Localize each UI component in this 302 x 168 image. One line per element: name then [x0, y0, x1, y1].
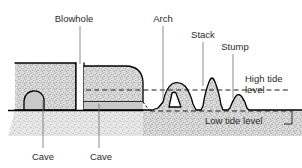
coastal-erosion-diagram: Blowhole Arch Stack Stump Cave Cave High… — [0, 0, 302, 168]
label-stack: Stack — [191, 29, 215, 40]
cave-right-opening — [84, 102, 143, 110]
label-stump: Stump — [221, 41, 248, 52]
label-blowhole: Blowhole — [55, 13, 94, 24]
label-arch: Arch — [153, 13, 173, 24]
eroded-edge-dashed — [143, 102, 149, 110]
blowhole-shaft — [76, 63, 84, 110]
wave-cut-platform — [143, 78, 302, 136]
second-cliff-landmass — [84, 66, 149, 110]
label-high-tide-line1: High tide — [245, 73, 283, 84]
left-cliff-landmass — [15, 63, 76, 110]
cave-left-opening — [24, 91, 44, 110]
label-high-tide-line2: level — [245, 84, 265, 95]
coastal-erosion-illustration: Blowhole Arch Stack Stump Cave Cave High… — [0, 0, 302, 168]
label-cave-left: Cave — [32, 151, 54, 162]
label-low-tide: Low tide level — [205, 115, 263, 126]
label-cave-right: Cave — [90, 151, 112, 162]
